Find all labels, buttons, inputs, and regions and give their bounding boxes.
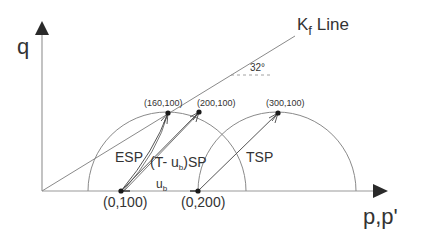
point-160-100 [165,110,170,115]
point-0-100 [118,188,123,193]
tusp-label-prefix: (T- u [150,154,179,170]
esp-label: ESP [115,150,143,164]
point-label-0-100: (0,100) [103,195,147,209]
tsp-label: TSP [246,150,273,164]
point-label-160-100: (160,100) [144,99,183,108]
pore-pressure-label: ub [156,178,167,193]
ub-label-main: u [156,177,163,191]
kf-label-suffix: Line [312,15,349,34]
p-axis-label: p,p' [363,206,398,228]
kf-label-k: K [297,15,308,34]
point-label-200-100: (200,100) [197,99,236,108]
point-0-200 [195,188,200,193]
point-200-100 [196,109,201,114]
axes [35,21,388,198]
point-label-0-200: (0,200) [181,195,225,209]
mohr-circle-total [198,112,356,191]
angle-label: 32° [250,63,265,73]
kf-line-label: Kf Line [297,16,349,37]
p-axis-arrow-icon [373,184,388,198]
point-label-300-100: (300,100) [266,99,305,108]
q-axis-label: q [17,36,29,58]
q-axis-arrow-icon [35,21,49,35]
ub-label-sub: b [163,184,167,193]
stress-path-diagram: q p,p' Kf Line 32° (160,100) (200,100) (… [0,0,423,247]
point-300-100 [275,110,280,115]
tusp-label: (T- ub)SP [150,155,207,172]
tusp-label-suffix: )SP [183,154,206,170]
